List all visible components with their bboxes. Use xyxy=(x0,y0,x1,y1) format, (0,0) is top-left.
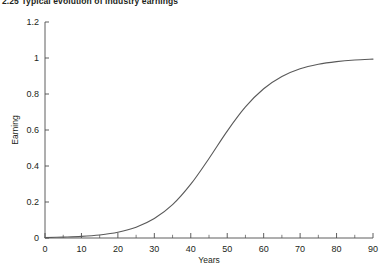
y-tick-label: 0.2 xyxy=(26,197,39,207)
x-tick-label: 20 xyxy=(113,244,123,254)
x-tick-label: 30 xyxy=(149,244,159,254)
x-tick-label: 0 xyxy=(42,244,47,254)
line-chart-svg: 00.20.40.60.811.2 Earning 01020304050607… xyxy=(0,0,381,268)
y-axis-tick-labels: 00.20.40.60.811.2 xyxy=(26,17,39,243)
x-tick-label: 40 xyxy=(186,244,196,254)
x-tick-label: 80 xyxy=(332,244,342,254)
x-tick-label: 90 xyxy=(368,244,378,254)
y-tick-label: 1.2 xyxy=(26,17,39,27)
data-series-group xyxy=(45,59,373,238)
x-axis-title: Years xyxy=(198,255,219,265)
x-tick-label: 70 xyxy=(295,244,305,254)
y-tick-label: 0.4 xyxy=(26,161,39,171)
y-axis-ticks xyxy=(45,22,49,238)
chart-plot-area: 00.20.40.60.811.2 Earning 01020304050607… xyxy=(0,0,381,268)
x-tick-label: 50 xyxy=(222,244,232,254)
y-tick-label: 0 xyxy=(34,233,39,243)
y-tick-label: 0.6 xyxy=(26,125,39,135)
x-axis-tick-labels: 0102030405060708090 xyxy=(42,244,378,254)
y-tick-label: 0.8 xyxy=(26,89,39,99)
x-tick-label: 10 xyxy=(76,244,86,254)
x-tick-label: 60 xyxy=(259,244,269,254)
series-line-industry-earnings xyxy=(45,59,373,238)
x-axis: 0102030405060708090 Years xyxy=(42,233,378,265)
y-tick-label: 1 xyxy=(34,53,39,63)
y-axis: 00.20.40.60.811.2 Earning xyxy=(10,17,49,243)
y-axis-title: Earning xyxy=(10,115,20,145)
